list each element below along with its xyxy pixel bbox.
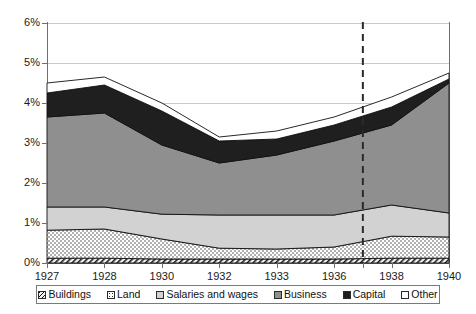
y-tick-mark [42,103,47,104]
chart-legend: BuildingsLandSalaries and wagesBusinessC… [36,285,440,304]
legend-swatch-icon [107,291,115,299]
x-tick-mark [104,263,105,268]
chart-root: 0%1%2%3%4%5%6% BuildingsLandSalaries and… [0,0,476,314]
legend-item-other[interactable]: Other [401,289,437,300]
x-tick-label: 1930 [139,270,185,282]
legend-label: Land [117,289,140,300]
y-tick-mark [42,63,47,64]
legend-item-capital[interactable]: Capital [343,289,386,300]
y-tick-mark [42,23,47,24]
legend-label: Salaries and wages [166,289,258,300]
stacked-area-series [0,0,476,314]
legend-label: Capital [353,289,386,300]
x-tick-label: 1928 [81,270,127,282]
legend-item-salaries-and-wages[interactable]: Salaries and wages [156,289,258,300]
x-tick-mark [219,263,220,268]
y-tick-mark [42,143,47,144]
x-tick-mark [334,263,335,268]
legend-swatch-icon [38,291,46,299]
legend-item-buildings[interactable]: Buildings [38,289,91,300]
legend-swatch-icon [156,291,164,299]
y-tick-mark [42,183,47,184]
x-tick-label: 1938 [369,270,415,282]
x-tick-label: 1927 [24,270,70,282]
y-tick-mark [42,223,47,224]
legend-swatch-icon [274,291,282,299]
legend-swatch-icon [343,291,351,299]
legend-label: Buildings [48,289,91,300]
x-tick-mark [162,263,163,268]
legend-swatch-icon [401,291,409,299]
x-tick-mark [449,263,450,268]
x-tick-mark [277,263,278,268]
x-tick-label: 1932 [196,270,242,282]
x-tick-label: 1936 [311,270,357,282]
legend-label: Other [411,289,437,300]
x-tick-label: 1933 [254,270,300,282]
legend-label: Business [284,289,327,300]
x-tick-label: 1940 [426,270,472,282]
x-tick-mark [392,263,393,268]
x-tick-mark [47,263,48,268]
legend-item-land[interactable]: Land [107,289,140,300]
legend-item-business[interactable]: Business [274,289,327,300]
x-tick-mark-annotation [363,263,364,268]
